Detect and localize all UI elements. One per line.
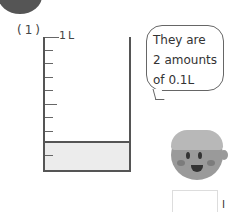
tick-mark [45, 37, 59, 38]
water-fill [45, 141, 129, 170]
speech-bubble: They are 2 amounts of 0.1L [146, 25, 224, 91]
question-badge [0, 0, 42, 14]
right-eye [198, 152, 202, 159]
right-cheek [207, 160, 215, 166]
question-number: (1) [17, 23, 43, 37]
ear [220, 150, 228, 160]
bubble-line: They are [153, 30, 217, 50]
tick-mark [45, 104, 57, 105]
tick-mark [45, 155, 53, 156]
mouth [191, 165, 203, 172]
tick-mark [45, 131, 53, 132]
tick-mark [45, 90, 53, 91]
left-cheek [177, 160, 185, 166]
tick-mark [45, 63, 53, 64]
measuring-beaker [43, 37, 131, 172]
left-eye [186, 152, 190, 159]
hair [171, 130, 223, 150]
bubble-line: of 0.1L [153, 70, 217, 90]
character-face-icon [171, 130, 223, 180]
tick-mark [45, 50, 53, 51]
answer-box[interactable] [172, 190, 218, 212]
bubble-line: 2 amounts [153, 50, 217, 70]
tick-mark [45, 77, 53, 78]
tick-mark [45, 117, 53, 118]
answer-unit: l [222, 198, 225, 211]
